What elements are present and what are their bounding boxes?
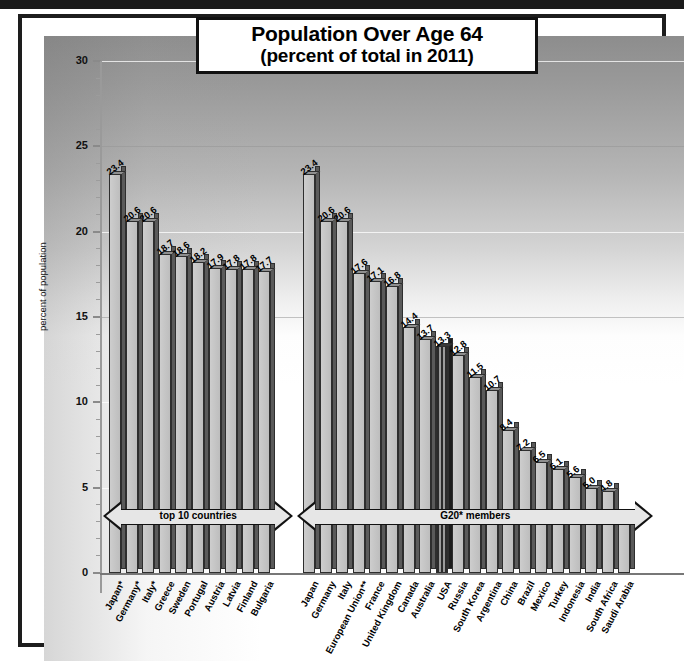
y-tick-label-30: 30 — [58, 54, 88, 66]
bar-russia[interactable] — [452, 350, 469, 573]
y-tick-label-25: 25 — [58, 139, 88, 151]
bar-face — [403, 327, 415, 573]
x-axis — [100, 573, 684, 575]
bar-face — [419, 339, 431, 573]
gridline-25 — [100, 146, 684, 147]
bar-usa[interactable] — [436, 341, 453, 573]
bar-australia[interactable] — [419, 334, 436, 573]
chart-title: Population Over Age 64 (percent of total… — [196, 17, 538, 74]
annotation-label: top 10 countries — [103, 509, 293, 523]
bar-canada[interactable] — [403, 322, 420, 573]
bar-face — [486, 390, 498, 573]
annotation-label: G20* members — [297, 509, 653, 523]
annotation-arrow-2: G20* members — [297, 501, 653, 531]
chart-screenshot: 051015202530percent of population23.4Jap… — [0, 0, 684, 668]
chart-title-line1: Population Over Age 64 — [207, 23, 527, 45]
top-black-band — [0, 0, 684, 9]
y-tick-label-0: 0 — [58, 566, 88, 578]
y-axis-title: percent of population — [37, 242, 48, 331]
y-tick-label-10: 10 — [58, 395, 88, 407]
bar-argentina[interactable] — [486, 385, 503, 573]
y-tick-label-15: 15 — [58, 310, 88, 322]
y-tick-label-5: 5 — [58, 481, 88, 493]
annotation-arrow-1: top 10 countries — [103, 501, 293, 531]
y-axis — [100, 61, 102, 593]
bar-face — [436, 346, 448, 573]
bar-south-korea[interactable] — [469, 372, 486, 573]
bar-face — [469, 377, 481, 573]
y-tick-label-20: 20 — [58, 225, 88, 237]
bar-face — [452, 355, 464, 573]
chart-title-line2: (percent of total in 2011) — [207, 45, 527, 66]
top-white-band — [0, 9, 684, 13]
chart-frame: 051015202530percent of population23.4Jap… — [18, 14, 666, 647]
gridline-20 — [100, 232, 684, 233]
chart-plot-area: 051015202530percent of population23.4Jap… — [44, 36, 684, 661]
